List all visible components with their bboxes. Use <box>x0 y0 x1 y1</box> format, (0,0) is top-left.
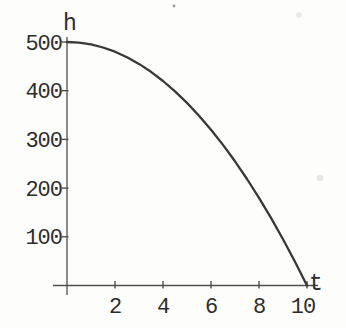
x-tick-label: 2 <box>109 295 121 320</box>
y-axis-label: h <box>63 13 76 36</box>
y-tick-label: 500 <box>25 32 62 57</box>
x-tick-label: 10 <box>291 295 315 320</box>
y-tick-label: 400 <box>25 80 62 105</box>
curve-path <box>67 42 307 286</box>
y-tick-label: 200 <box>25 178 62 203</box>
chart-figure: 246810100200300400500 h t <box>0 0 346 328</box>
x-axis-label: t <box>309 273 322 296</box>
x-tick-label: 4 <box>157 295 170 320</box>
scan-artifact <box>173 5 176 8</box>
y-tick-label: 100 <box>25 226 62 251</box>
x-tick-label: 6 <box>205 295 217 320</box>
y-tick-label: 300 <box>25 129 62 154</box>
scan-artifact <box>317 175 323 181</box>
x-tick-label: 8 <box>253 295 265 320</box>
scan-artifact <box>296 12 302 18</box>
plot-canvas: 246810100200300400500 <box>0 0 346 328</box>
